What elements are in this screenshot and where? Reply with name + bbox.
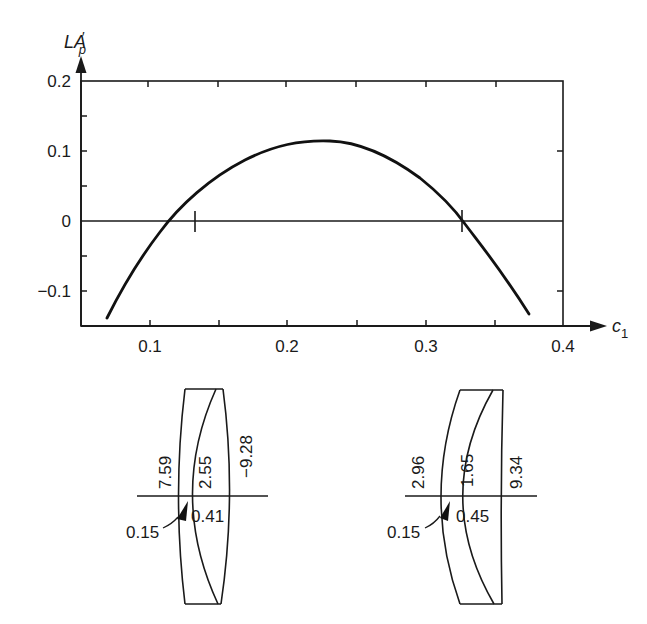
lens-diagram-2	[405, 390, 537, 604]
lens2-surface-cemented	[463, 390, 494, 604]
lens1-leader-line	[163, 517, 178, 528]
lens-diagram-1	[137, 389, 268, 604]
y-tick-label: 0.2	[47, 72, 71, 91]
plot-frame	[81, 81, 563, 326]
x-tick-label: 0.3	[414, 337, 438, 356]
y-tick-label: 0.1	[47, 142, 71, 161]
lens2-surface-label: 9.34	[507, 456, 526, 489]
lens2-surface-rear	[501, 390, 503, 604]
chart: 0.2 0.1 0 −0.1 0.1 0.2 0.3 0.4 LA′p c1	[37, 29, 628, 356]
lens1-surface-label: 2.55	[196, 456, 215, 489]
y-axis-arrow-icon	[76, 56, 87, 73]
x-tick-label: 0.1	[138, 337, 162, 356]
y-tick-label: −0.1	[37, 282, 71, 301]
x-tick-label: 0.2	[275, 337, 299, 356]
figure: 0.2 0.1 0 −0.1 0.1 0.2 0.3 0.4 LA′p c1	[0, 0, 647, 624]
lens2-surface-front	[441, 390, 460, 604]
lens2-thickness-label: 0.45	[456, 507, 489, 526]
lens1-thickness-label: 0.15	[126, 523, 159, 542]
x-tick-label: 0.4	[551, 337, 575, 356]
lens2-surface-label: 1.65	[458, 454, 477, 487]
lens1-surface-label: 7.59	[156, 456, 175, 489]
x-ticks-top	[148, 81, 496, 87]
y-tick-label: 0	[62, 212, 71, 231]
lens2-thickness-label: 0.15	[387, 523, 420, 542]
lens1-surface-label: −9.28	[237, 435, 256, 478]
y-axis-title: LA′p	[64, 29, 86, 57]
lens1-thickness-label: 0.41	[191, 507, 224, 526]
x-axis-title: c1	[612, 316, 628, 341]
x-axis-arrow-icon	[590, 321, 607, 332]
lens2-surface-label: 2.96	[409, 456, 428, 489]
data-curve	[107, 141, 529, 318]
lens2-leader-line	[425, 516, 440, 528]
